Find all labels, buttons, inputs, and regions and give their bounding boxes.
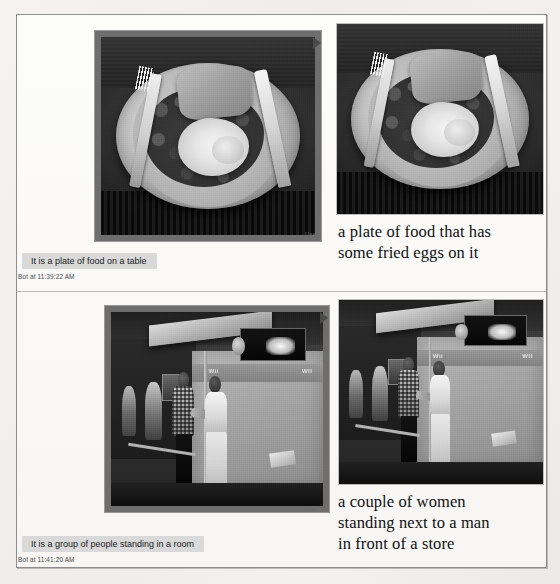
caption-line: a plate of food that has bbox=[338, 221, 491, 242]
bot-message-bubble-2: It is a group of people standing in a ro… bbox=[22, 536, 204, 552]
conversation-row-2: Wii WII User It is a bbox=[17, 292, 546, 567]
user-label-2: User bbox=[303, 506, 316, 512]
message-sent-caret-icon bbox=[313, 37, 321, 49]
plate-photo-art-crop bbox=[337, 24, 543, 214]
photo-grain bbox=[101, 37, 315, 235]
caption-example-1: a plate of food that has some fried eggs… bbox=[337, 15, 546, 291]
bot-timestamp-2: Bot at 11:41:20 AM bbox=[18, 556, 75, 563]
message-sent-caret-icon bbox=[320, 312, 328, 324]
caption-line: some fried eggs on it bbox=[338, 242, 491, 263]
figure-panel: User It is a plate of food on a table Bo… bbox=[16, 14, 547, 568]
conversation-row-1: User It is a plate of food on a table Bo… bbox=[17, 15, 546, 291]
generated-caption-2: a couple of women standing next to a man… bbox=[338, 491, 490, 554]
plate-photo-art bbox=[101, 37, 315, 235]
chat-screenshot-2: Wii WII User It is a bbox=[17, 292, 337, 567]
photo-grain bbox=[339, 300, 543, 484]
store-photo-art-crop: Wii WII bbox=[339, 300, 543, 484]
caption-line: in front of a store bbox=[338, 533, 490, 554]
photo-grain bbox=[111, 312, 323, 506]
user-sent-image-1[interactable] bbox=[95, 31, 321, 241]
bot-timestamp-1: Bot at 11:39:22 AM bbox=[18, 273, 75, 280]
photo-grain bbox=[337, 24, 543, 214]
bot-message-bubble-1: It is a plate of food on a table bbox=[22, 253, 157, 269]
store-photo-art: Wii WII bbox=[111, 312, 323, 506]
caption-example-2: Wii WII a couple of women bbox=[337, 292, 546, 567]
caption-line: a couple of women bbox=[338, 491, 490, 512]
reference-image-1 bbox=[337, 24, 543, 214]
caption-line: standing next to a man bbox=[338, 512, 490, 533]
user-sent-image-2[interactable]: Wii WII bbox=[105, 306, 329, 512]
user-label-1: User bbox=[305, 231, 318, 237]
generated-caption-1: a plate of food that has some fried eggs… bbox=[338, 221, 491, 263]
chat-screenshot-1: User It is a plate of food on a table Bo… bbox=[17, 15, 337, 291]
reference-image-2: Wii WII bbox=[339, 300, 543, 484]
